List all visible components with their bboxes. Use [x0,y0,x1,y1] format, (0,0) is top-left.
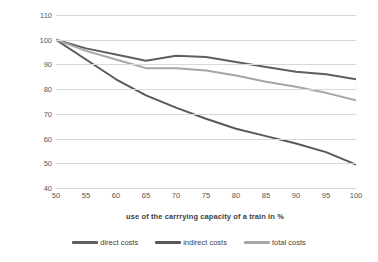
gridline [56,89,356,90]
line-chart: costs per TEU in % 405060708090100110 50… [0,0,378,262]
gridline [56,163,356,164]
x-tick-label-100: 100 [350,191,363,200]
series-line-direct-costs [56,40,356,80]
y-tick-label-100: 100 [30,35,52,44]
legend-item-total-costs[interactable]: total costs [244,238,306,247]
x-tick-label-90: 90 [292,191,300,200]
y-tick-label-50: 50 [30,159,52,168]
gridline [56,40,356,41]
series-lines [56,15,356,188]
plot-area [56,15,356,188]
legend-swatch-icon [244,241,270,243]
y-tick-label-70: 70 [30,109,52,118]
y-tick-label-60: 60 [30,134,52,143]
x-tick-label-50: 50 [52,191,60,200]
y-axis-tick-labels: 405060708090100110 [26,15,52,188]
legend-swatch-icon [155,241,181,243]
gridline [56,139,356,140]
legend-label: indirect costs [183,238,227,247]
x-tick-label-75: 75 [202,191,210,200]
legend-item-indirect-costs[interactable]: indirect costs [155,238,227,247]
legend-label: total costs [272,238,306,247]
gridline [56,15,356,16]
legend-swatch-icon [72,241,98,243]
x-axis-title: use of the carrrying capacity of a train… [50,212,360,221]
gridline [56,64,356,65]
x-tick-label-95: 95 [322,191,330,200]
y-tick-label-110: 110 [30,11,52,20]
legend-item-direct-costs[interactable]: direct costs [72,238,138,247]
y-tick-label-40: 40 [30,184,52,193]
legend-label: direct costs [100,238,138,247]
gridline [56,188,356,189]
gridline [56,114,356,115]
chart-legend: direct costsindirect coststotal costs [0,238,378,247]
y-tick-label-80: 80 [30,85,52,94]
y-tick-label-90: 90 [30,60,52,69]
x-tick-label-80: 80 [232,191,240,200]
series-line-indirect-costs [56,40,356,165]
x-tick-label-70: 70 [172,191,180,200]
x-tick-label-55: 55 [82,191,90,200]
x-tick-label-60: 60 [112,191,120,200]
x-tick-label-65: 65 [142,191,150,200]
x-tick-label-85: 85 [262,191,270,200]
